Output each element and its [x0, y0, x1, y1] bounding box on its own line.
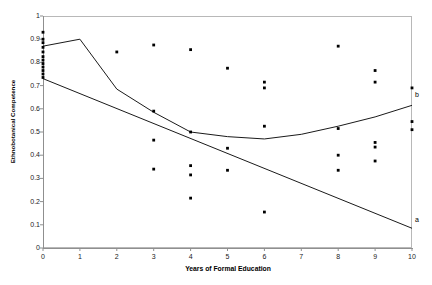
y-tick-label: 0.8: [6, 58, 40, 66]
x-tick-label: 2: [107, 252, 127, 261]
y-tick-label: 0.9: [6, 35, 40, 43]
curve-label-a: a: [415, 216, 419, 224]
y-tick-label: 1: [6, 12, 40, 20]
chart-figure: 00.10.20.30.40.50.60.70.80.91 0123456789…: [0, 0, 432, 285]
y-tick-label: 0: [6, 244, 40, 252]
x-tick-label: 3: [144, 252, 164, 261]
x-axis-line: [43, 248, 413, 249]
x-tick-label: 0: [33, 252, 53, 261]
plot-area-frame: [43, 16, 412, 248]
x-tick-label: 6: [254, 252, 274, 261]
y-axis-tick-labels: 00.10.20.30.40.50.60.70.80.91: [0, 0, 40, 285]
x-tick-label: 7: [291, 252, 311, 261]
x-axis-title: Years of Formal Education: [43, 265, 413, 272]
x-tick-label: 8: [328, 252, 348, 261]
x-tick-label: 10: [402, 252, 422, 261]
curve-label-b: b: [415, 91, 419, 99]
y-tick-label: 0.2: [6, 198, 40, 206]
x-tick-label: 9: [365, 252, 385, 261]
y-axis-line: [43, 16, 44, 249]
y-tick-label: 0.1: [6, 221, 40, 229]
x-tick-label: 5: [218, 252, 238, 261]
x-tick-label: 4: [181, 252, 201, 261]
x-axis-tick-labels: 012345678910: [0, 252, 432, 264]
y-axis-title: Ethnobotanical Competence: [9, 67, 16, 177]
x-tick-label: 1: [70, 252, 90, 261]
